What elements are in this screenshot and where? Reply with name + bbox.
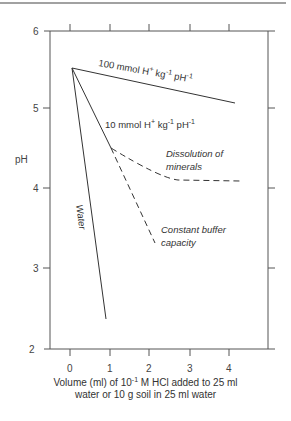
annotation-100-mmol: 100 mmol H+ kg-1 pH-1 bbox=[98, 56, 194, 84]
x-tick-1: 1 bbox=[107, 363, 113, 374]
x-tick-4: 4 bbox=[226, 363, 232, 374]
annotation-dissolution-1: Dissolution of bbox=[166, 148, 224, 159]
line-water bbox=[72, 68, 106, 319]
series-lines bbox=[72, 68, 240, 319]
x-ticks bbox=[70, 24, 229, 356]
y-tick-labels: 6 5 4 3 2 bbox=[29, 26, 39, 355]
x-tick-3: 3 bbox=[187, 363, 193, 374]
y-tick-3: 3 bbox=[33, 263, 39, 274]
line-constant-buffer bbox=[111, 148, 155, 243]
x-axis-label-line1: Volume (ml) of 10-1 M HCl added to 25 ml bbox=[0, 374, 291, 389]
y-tick-4: 4 bbox=[33, 183, 39, 194]
y-tick-6: 6 bbox=[33, 26, 39, 37]
x-tick-labels: 0 1 2 3 4 bbox=[67, 363, 232, 374]
x-label-part: Volume (ml) of 10 bbox=[53, 377, 131, 388]
annotation-buffer-2: capacity bbox=[161, 237, 197, 248]
y-axis-label: pH bbox=[15, 154, 28, 165]
annotation-water: Water bbox=[74, 204, 89, 231]
x-axis-label-line2: water or 10 g soil in 25 ml water bbox=[0, 389, 291, 401]
y-tick-5: 5 bbox=[33, 103, 39, 114]
x-axis-label: Volume (ml) of 10-1 M HCl added to 25 ml… bbox=[0, 374, 291, 401]
y-tick-2: 2 bbox=[29, 344, 35, 355]
x-tick-2: 2 bbox=[146, 363, 152, 374]
y-ticks bbox=[43, 108, 275, 268]
ph-titration-chart: 6 5 4 3 2 pH 0 1 2 3 4 100 mmol H+ kg-1 … bbox=[0, 0, 291, 421]
x-tick-0: 0 bbox=[67, 363, 73, 374]
annotation-dissolution-2: minerals bbox=[166, 161, 202, 172]
annotation-10-mmol: 10 mmol H+ kg-1 pH-1 bbox=[105, 118, 195, 130]
x-label-part: M HCl added to 25 ml bbox=[138, 377, 238, 388]
annotation-buffer-1: Constant buffer bbox=[161, 224, 227, 235]
